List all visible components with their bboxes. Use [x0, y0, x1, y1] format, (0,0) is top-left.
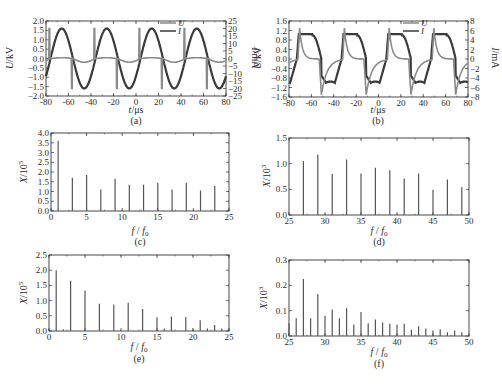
xlabel-e-sub: 0	[144, 346, 148, 354]
caption-f: (f)	[374, 358, 384, 370]
x-tick-label: -60	[305, 98, 317, 108]
y-tick-label: 1.5	[36, 280, 48, 290]
y-tick-label: 3.5	[38, 138, 50, 148]
y-tick-label: 1.2	[276, 26, 287, 36]
x-tick-label: 20	[154, 97, 164, 107]
x-tick-label: 20	[189, 332, 199, 342]
y-tick-label: 1.0	[36, 296, 48, 306]
ylabel-c: X/105	[17, 160, 29, 184]
y-tick-label: −0.8	[271, 73, 288, 83]
ylabel-e: X/105	[17, 281, 29, 305]
x-tick-label: 40	[393, 337, 403, 347]
x-tick-label: 45	[429, 337, 439, 347]
x-tick-label: 50	[465, 216, 475, 226]
y2-tick-label: 4	[470, 35, 475, 45]
x-tick-label: 5	[83, 332, 88, 342]
x-tick-label: 5	[84, 212, 89, 222]
ylabel-c-exp: 5	[17, 160, 25, 164]
ylabel-b-unit: /kV	[252, 46, 263, 62]
plot-frame	[51, 133, 229, 211]
x-tick-label: -20	[350, 98, 362, 108]
xlabel-f-sub: 0	[384, 351, 388, 359]
x-tick-label: -60	[63, 97, 75, 107]
y-tick-label: 0.8	[276, 35, 288, 45]
ylabel-a: U/kV	[4, 46, 15, 69]
x-tick-label: 45	[429, 216, 439, 226]
panel-d-spectrum-high: 2530354045501.51.00.50.0	[276, 133, 474, 226]
ylabel-d-exp: 3	[260, 164, 268, 168]
y2-tick-label: −4	[470, 73, 480, 83]
xlabel-d-sub: 0	[384, 230, 388, 238]
y-tick-label: 2.5	[36, 250, 48, 260]
ylabel-c-unit: /10	[18, 164, 29, 177]
y-tick-label: −2.0	[28, 91, 45, 101]
caption-a: (a)	[130, 115, 141, 127]
ylabel-a-unit: /kV	[4, 46, 15, 62]
x-tick-label: -20	[108, 97, 120, 107]
panel-b-voltage-current-waveform: -80-60-40-200204060801.61.20.80.40.0−0.4…	[271, 16, 480, 108]
plot-frame	[49, 255, 229, 331]
x-tick-label: -40	[85, 97, 97, 107]
xlabel-e-sep: /	[133, 341, 141, 352]
y-tick-label: 1.5	[38, 177, 50, 187]
y-tick-label: −0.4	[271, 64, 288, 74]
xlabel-c-sep: /	[134, 225, 142, 236]
ylabel-d-unit: /10	[261, 168, 272, 181]
caption-b: (b)	[372, 115, 384, 127]
y-tick-label: 0.1	[276, 306, 287, 316]
y-tick-label: 0.0	[276, 210, 288, 220]
xlabel-f-sep: /	[373, 346, 381, 357]
figure: -80-60-40-200204060802.01.51.00.50.0−0.5…	[0, 0, 502, 385]
plot-frame	[289, 260, 469, 336]
y-tick-label: 0.5	[276, 184, 288, 194]
panel-e-spectrum-low: 05101520252.52.01.51.00.50.0	[36, 250, 234, 342]
xlabel-b-unit: /μs	[373, 104, 385, 115]
xlabel-a-unit: /μs	[131, 104, 143, 115]
y-tick-label: 0.3	[276, 255, 288, 265]
x-tick-label: 0	[47, 332, 52, 342]
x-tick-label: 10	[117, 332, 127, 342]
y-tick-label: 2.0	[36, 265, 48, 275]
x-tick-label: 40	[419, 98, 429, 108]
y2-tick-label: 2	[470, 45, 475, 55]
y-tick-label: 0.0	[36, 326, 48, 336]
x-tick-label: 15	[153, 332, 163, 342]
ylabel-b: U/kV	[252, 46, 263, 69]
ylabel-f: X/103	[257, 286, 269, 310]
x-tick-label: 60	[441, 98, 451, 108]
y-tick-label: −1.2	[271, 83, 287, 93]
panel-c-spectrum-low: 05101520254.03.53.02.52.01.51.00.50.0	[38, 128, 234, 222]
x-tick-label: -40	[328, 98, 340, 108]
x-tick-label: 35	[357, 216, 367, 226]
y-tick-label: 0.0	[38, 206, 50, 216]
y2-tick-label: 0	[470, 54, 475, 64]
y-tick-label: 0.5	[36, 311, 48, 321]
ylabel-e-unit: /10	[18, 285, 29, 298]
ylabel-f-unit: /10	[258, 290, 269, 303]
y-tick-label: 2.5	[38, 157, 50, 167]
x-tick-label: 60	[199, 97, 209, 107]
xlabel-d-sep: /	[373, 225, 381, 236]
xlabel-c-sub: 0	[145, 230, 149, 238]
x-tick-label: 20	[396, 98, 406, 108]
ylabel-f-exp: 3	[257, 286, 265, 290]
x-tick-label: 20	[189, 212, 199, 222]
y-tick-label: 0.0	[276, 331, 288, 341]
y-tick-label: 1.0	[38, 187, 50, 197]
y-tick-label: 1.0	[276, 159, 288, 169]
x-tick-label: 10	[118, 212, 128, 222]
y-tick-label: −1.6	[271, 92, 288, 102]
xlabel-a: t/μs	[129, 104, 144, 115]
y2-tick-label: 6	[470, 26, 475, 36]
y-tick-label: 4.0	[38, 128, 50, 138]
x-tick-label: 30	[321, 216, 331, 226]
y-tick-label: 0.5	[38, 196, 50, 206]
x-tick-label: 35	[357, 337, 367, 347]
y-tick-label: 1.6	[276, 16, 288, 26]
y-tick-label: 0.2	[276, 280, 287, 290]
panel-f-spectrum-high: 2530354045500.30.20.10.0	[276, 255, 474, 347]
y2-tick-label: −2	[470, 64, 480, 74]
ylabel-e-exp: 5	[17, 281, 25, 285]
panel-a-voltage-current-waveform: -80-60-40-200204060802.01.51.00.50.0−0.5…	[28, 16, 243, 107]
x-tick-label: 15	[153, 212, 163, 222]
